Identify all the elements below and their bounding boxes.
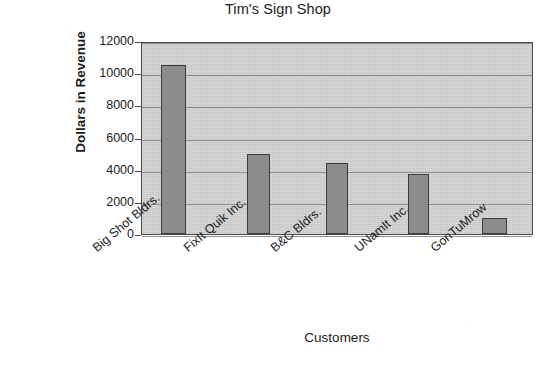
gridline bbox=[142, 107, 532, 108]
x-axis-title: Customers bbox=[141, 330, 533, 345]
y-tick-mark bbox=[135, 171, 141, 172]
bar bbox=[408, 174, 429, 234]
y-tick-mark bbox=[135, 42, 141, 43]
y-tick-label: 4000 bbox=[86, 163, 134, 177]
y-tick-mark bbox=[135, 235, 141, 236]
chart-screenshot: Tim's Sign Shop Dollars in Revenue 02000… bbox=[0, 0, 556, 366]
y-tick-mark bbox=[135, 74, 141, 75]
y-tick-label: 12000 bbox=[86, 34, 134, 48]
bar bbox=[482, 218, 507, 234]
y-tick-label: 8000 bbox=[86, 98, 134, 112]
y-tick-mark bbox=[135, 139, 141, 140]
bar bbox=[326, 163, 348, 234]
y-tick-mark bbox=[135, 106, 141, 107]
y-tick-label: 2000 bbox=[86, 195, 134, 209]
bar bbox=[161, 65, 186, 234]
gridline bbox=[142, 140, 532, 141]
y-axis-title: Dollars in Revenue bbox=[73, 2, 88, 182]
gridline bbox=[142, 75, 532, 76]
gridline bbox=[142, 43, 532, 44]
bar bbox=[247, 154, 270, 234]
y-tick-label: 6000 bbox=[86, 131, 134, 145]
y-tick-label: 10000 bbox=[86, 66, 134, 80]
